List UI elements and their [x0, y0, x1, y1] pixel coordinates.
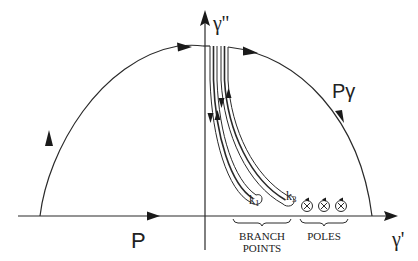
vertical-axis-label: γ'': [212, 12, 229, 35]
arc-contour: [40, 43, 372, 217]
arc-arrow-left-icon: [45, 130, 53, 146]
arc-arrow-top-right-icon: [243, 47, 258, 56]
pole-1: [302, 198, 313, 212]
path-p-label: P: [131, 228, 146, 253]
contour-diagram: k1 k3 BRANCH POINTS POLES γ'' γ' P Pγ: [0, 0, 418, 261]
axis-arrow-right-icon: [384, 211, 398, 221]
pole-2: [319, 198, 330, 212]
arc-path-label: Pγ: [332, 80, 355, 102]
branch-cut-k3: [219, 46, 295, 206]
poles-label: POLES: [307, 230, 341, 242]
branch-cut-k1: [208, 46, 263, 204]
cut1-arrow-down-icon: [208, 113, 214, 123]
branch-points-label-line2: POINTS: [243, 242, 282, 254]
horizontal-axis-label: γ': [391, 228, 404, 251]
branch-points-brace: [233, 219, 291, 226]
poles: [302, 198, 347, 212]
branch-points-label-line1: BRANCH: [239, 230, 285, 242]
pole-3: [336, 198, 347, 212]
branch-point-k1-label: k1: [249, 193, 260, 208]
branch-point-k3-label: k3: [286, 189, 297, 204]
poles-brace: [300, 219, 348, 226]
path-p-arrow-icon: [147, 212, 160, 221]
arc-arrow-top-left-icon: [177, 43, 192, 52]
horizontal-axis: [18, 211, 398, 221]
